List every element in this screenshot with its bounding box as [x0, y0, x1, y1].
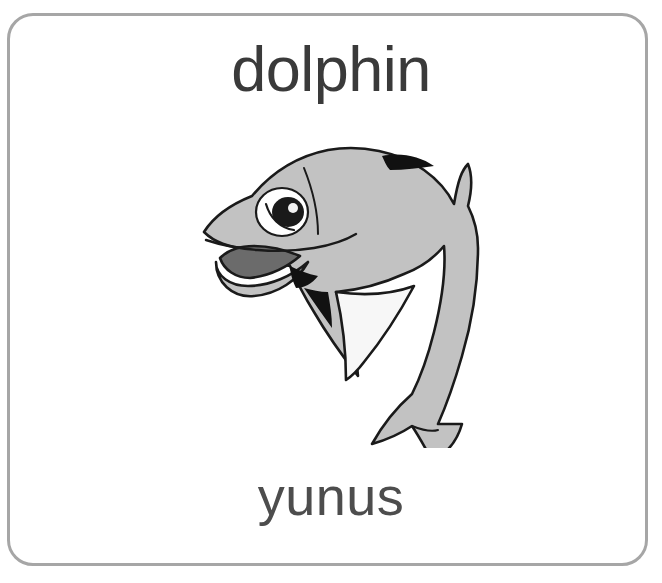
dolphin-illustration: [186, 108, 496, 448]
vocabulary-flashcard: dolphin: [0, 0, 662, 583]
english-word-label: dolphin: [0, 38, 662, 101]
turkish-word-label: yunus: [0, 469, 662, 523]
